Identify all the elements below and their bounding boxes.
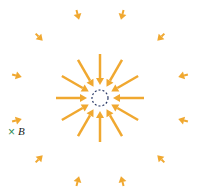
outer-arrow bbox=[74, 176, 82, 186]
inner-arrow bbox=[107, 109, 123, 136]
inner-arrow bbox=[62, 76, 89, 92]
inner-arrow bbox=[56, 94, 87, 102]
inner-arrow bbox=[78, 109, 94, 136]
outer-arrow bbox=[178, 72, 188, 80]
outer-arrow bbox=[36, 155, 43, 162]
inner-arrow bbox=[78, 60, 94, 87]
inner-arrow bbox=[113, 94, 144, 102]
outer-arrow bbox=[119, 10, 127, 20]
inner-arrow bbox=[111, 105, 138, 121]
inner-arrow bbox=[96, 111, 104, 142]
dashed-circle bbox=[92, 90, 108, 106]
inner-arrow bbox=[107, 60, 123, 87]
outer-arrow bbox=[12, 72, 22, 80]
outer-arrow bbox=[74, 10, 82, 20]
point-b-marker: × bbox=[8, 125, 15, 139]
field-diagram bbox=[0, 0, 202, 194]
inner-arrow bbox=[62, 105, 89, 121]
outer-arrow bbox=[157, 34, 164, 41]
outer-arrow bbox=[178, 117, 188, 125]
outer-arrow bbox=[119, 176, 127, 186]
outer-arrow bbox=[36, 34, 43, 41]
inner-arrow bbox=[111, 76, 138, 92]
outer-arrow bbox=[157, 155, 164, 162]
inner-arrow bbox=[96, 54, 104, 85]
point-b-label: B bbox=[18, 125, 25, 137]
outer-arrow bbox=[12, 117, 22, 125]
